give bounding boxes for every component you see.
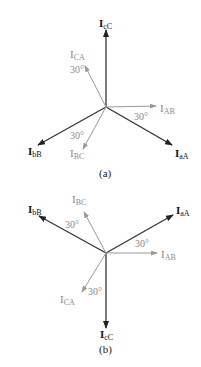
angle-label-a-2: 30° [134, 111, 148, 122]
label-IBC-b: IBC [72, 193, 86, 207]
diagram-b: IbB IBC 30° IaA 30° IAB 30° ICA IcC (b) [28, 193, 190, 356]
label-IcC-a: IcC [99, 17, 112, 31]
phasor-diagrams: IcC ICA 30° IAB 30° 30° IbB IBC IaA (a) … [0, 0, 201, 367]
label-ICA-b: ICA [60, 293, 75, 307]
caption-b: (b) [99, 343, 112, 356]
label-IcC-b: IcC [100, 328, 113, 342]
label-IbB-a: IbB [28, 145, 42, 159]
diagram-a: IcC ICA 30° IAB 30° 30° IbB IBC IaA (a) [28, 17, 189, 180]
label-IAB-b: IAB [161, 248, 176, 262]
label-IAB-a: IAB [160, 102, 175, 116]
label-IbB-b: IbB [28, 203, 42, 217]
label-IaA-b: IaA [176, 204, 190, 218]
angle-label-b-2: 30° [135, 238, 149, 249]
phasor-ICA-a [85, 66, 106, 107]
label-IBC-a: IBC [70, 147, 84, 161]
label-ICA-a: ICA [70, 48, 85, 62]
angle-label-b-3: 30° [88, 286, 102, 297]
angle-label-a-3: 30° [70, 130, 84, 141]
label-IaA-a: IaA [175, 147, 189, 161]
angle-label-a-1: 30° [70, 64, 84, 75]
angle-label-b-1: 30° [65, 219, 79, 230]
phasor-IAB-a [106, 106, 156, 107]
caption-a: (a) [99, 167, 112, 180]
